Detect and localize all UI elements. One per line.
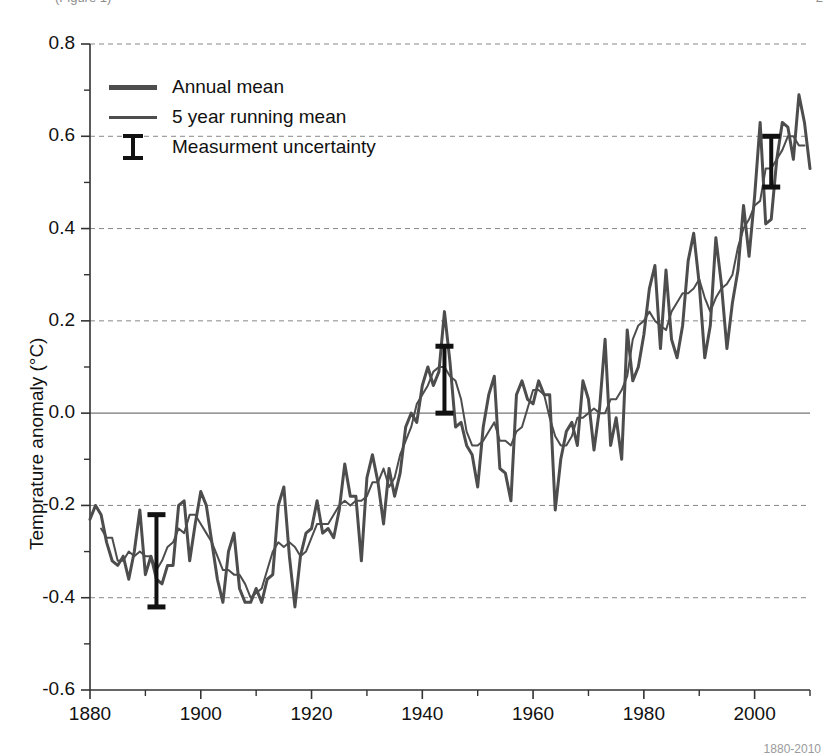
- chart-legend: Annual mean 5 year running mean Measurme…: [104, 72, 434, 162]
- legend-label-uncertainty: Measurment uncertainty: [172, 136, 376, 158]
- running-mean-line-icon: [104, 102, 162, 132]
- y-tick-label: 0.8: [13, 32, 75, 54]
- legend-label-annual-mean: Annual mean: [172, 76, 284, 98]
- annual-mean-line-icon: [104, 72, 162, 102]
- y-tick-label: -0.4: [13, 586, 75, 608]
- error-bars: [147, 136, 780, 607]
- y-axis-label: Temprature anomaly (°C): [26, 338, 48, 550]
- error-bar-icon: [104, 132, 162, 162]
- legend-item-uncertainty: Measurment uncertainty: [104, 132, 434, 162]
- legend-item-annual-mean: Annual mean: [104, 72, 434, 102]
- legend-label-running-mean: 5 year running mean: [172, 106, 346, 128]
- cropped-footer-text: 1880-2010: [764, 742, 821, 753]
- legend-item-running-mean: 5 year running mean: [104, 102, 434, 132]
- y-tick-label: 0.2: [13, 309, 75, 331]
- y-tick-label: -0.2: [13, 493, 75, 515]
- x-tick-label: 1940: [387, 703, 457, 725]
- y-tick-label: 0.0: [13, 401, 75, 423]
- x-tick-label: 1900: [166, 703, 236, 725]
- x-tick-label: 1980: [609, 703, 679, 725]
- x-tick-label: 2000: [720, 703, 790, 725]
- x-tick-label: 1920: [277, 703, 347, 725]
- y-tick-label: 0.4: [13, 217, 75, 239]
- y-tick-label: -0.6: [13, 678, 75, 700]
- x-tick-label: 1960: [498, 703, 568, 725]
- y-tick-label: 0.6: [13, 124, 75, 146]
- x-tick-label: 1880: [55, 703, 125, 725]
- data-series: [90, 95, 810, 607]
- temperature-anomaly-figure: (Figure 1) 2 Temprature anomaly (°C) 0.8…: [0, 0, 829, 753]
